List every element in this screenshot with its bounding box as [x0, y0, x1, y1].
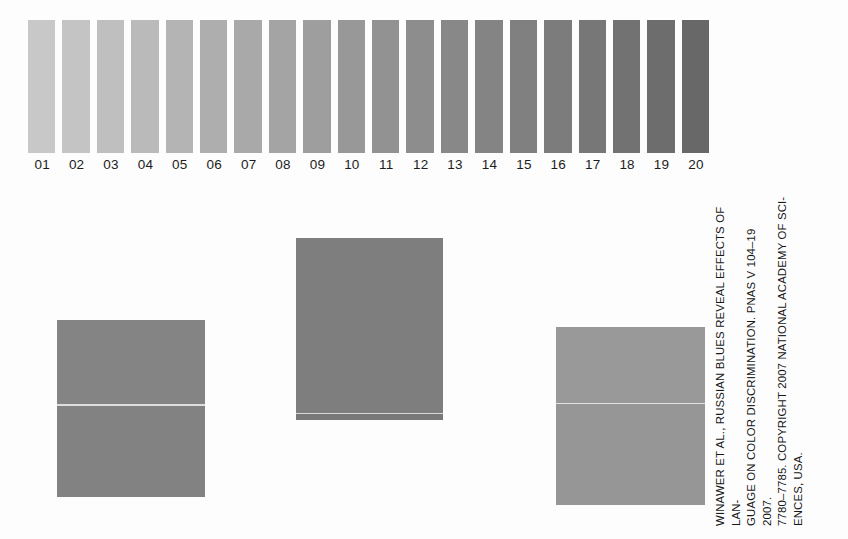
swatch-bar-15[interactable] [510, 20, 537, 153]
gradient-swatch-strip [25, 20, 713, 153]
center-comparison-square[interactable] [296, 238, 443, 420]
swatch-label-17: 17 [576, 156, 610, 174]
swatch-bar-08[interactable] [269, 20, 296, 153]
swatch-column[interactable] [472, 20, 506, 153]
swatch-bar-03[interactable] [97, 20, 124, 153]
swatch-bar-16[interactable] [544, 20, 571, 153]
swatch-label-03: 03 [94, 156, 128, 174]
swatch-bar-01[interactable] [28, 20, 55, 153]
swatch-column[interactable] [541, 20, 575, 153]
swatch-column[interactable] [163, 20, 197, 153]
square-bottom-strip [296, 414, 443, 420]
swatch-bar-06[interactable] [200, 20, 227, 153]
square-bottom-half [57, 405, 205, 497]
swatch-column[interactable] [679, 20, 713, 153]
swatch-column[interactable] [231, 20, 265, 153]
swatch-bar-17[interactable] [579, 20, 606, 153]
swatch-column[interactable] [369, 20, 403, 153]
swatch-label-18: 18 [610, 156, 644, 174]
swatch-column[interactable] [266, 20, 300, 153]
swatch-bar-02[interactable] [62, 20, 89, 153]
swatch-tick-labels: 01 02 03 04 05 06 07 08 09 10 11 12 13 1… [25, 156, 713, 174]
swatch-column[interactable] [507, 20, 541, 153]
swatch-label-10: 10 [335, 156, 369, 174]
swatch-bar-12[interactable] [406, 20, 433, 153]
right-comparison-square[interactable] [556, 327, 705, 505]
swatch-label-08: 08 [266, 156, 300, 174]
square-top-half [296, 238, 443, 413]
swatch-column[interactable] [197, 20, 231, 153]
swatch-column[interactable] [403, 20, 437, 153]
swatch-bar-04[interactable] [131, 20, 158, 153]
swatch-bar-19[interactable] [647, 20, 674, 153]
square-divider-line [556, 403, 705, 405]
left-comparison-square[interactable] [57, 320, 205, 497]
swatch-label-01: 01 [25, 156, 59, 174]
swatch-column[interactable] [610, 20, 644, 153]
swatch-label-13: 13 [438, 156, 472, 174]
swatch-label-07: 07 [231, 156, 265, 174]
swatch-bar-09[interactable] [303, 20, 330, 153]
source-caption: WINAWER ET AL., RUSSIAN BLUES REVEAL EFF… [713, 196, 775, 526]
swatch-column[interactable] [59, 20, 93, 153]
swatch-bar-20[interactable] [682, 20, 709, 153]
swatch-column[interactable] [438, 20, 472, 153]
swatch-label-02: 02 [59, 156, 93, 174]
swatch-label-16: 16 [541, 156, 575, 174]
swatch-label-04: 04 [128, 156, 162, 174]
square-top-half [57, 320, 205, 405]
swatch-label-05: 05 [163, 156, 197, 174]
swatch-bar-18[interactable] [613, 20, 640, 153]
square-top-half [556, 327, 705, 404]
source-caption-text: WINAWER ET AL., RUSSIAN BLUES REVEAL EFF… [713, 196, 807, 526]
swatch-bar-10[interactable] [338, 20, 365, 153]
swatch-column[interactable] [128, 20, 162, 153]
figure-canvas: 01 02 03 04 05 06 07 08 09 10 11 12 13 1… [0, 0, 848, 539]
swatch-label-09: 09 [300, 156, 334, 174]
swatch-bar-11[interactable] [372, 20, 399, 153]
swatch-column[interactable] [25, 20, 59, 153]
square-divider-line [57, 404, 205, 406]
swatch-column[interactable] [94, 20, 128, 153]
swatch-label-12: 12 [403, 156, 437, 174]
square-bottom-half [556, 404, 705, 505]
swatch-column[interactable] [644, 20, 678, 153]
swatch-label-19: 19 [644, 156, 678, 174]
swatch-label-14: 14 [472, 156, 506, 174]
swatch-bar-05[interactable] [166, 20, 193, 153]
swatch-bar-13[interactable] [441, 20, 468, 153]
swatch-bar-14[interactable] [475, 20, 502, 153]
swatch-label-11: 11 [369, 156, 403, 174]
swatch-column[interactable] [335, 20, 369, 153]
square-divider-line [296, 413, 443, 415]
swatch-label-15: 15 [507, 156, 541, 174]
swatch-bar-07[interactable] [234, 20, 261, 153]
swatch-label-20: 20 [679, 156, 713, 174]
swatch-column[interactable] [576, 20, 610, 153]
swatch-column[interactable] [300, 20, 334, 153]
swatch-label-06: 06 [197, 156, 231, 174]
